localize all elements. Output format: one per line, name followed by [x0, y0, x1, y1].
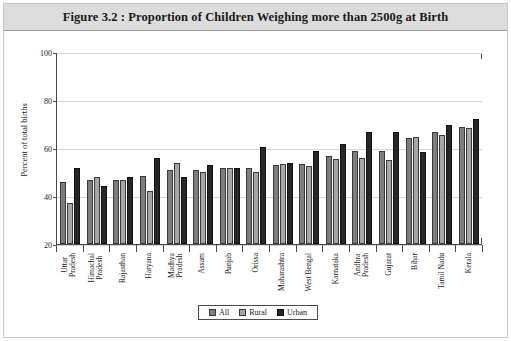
x-tick-mark	[455, 245, 456, 252]
x-tick-mark	[163, 245, 164, 252]
x-axis-label-line: Assam	[198, 253, 206, 274]
legend-label-rural: Rural	[249, 308, 267, 317]
x-axis-label-karnataka: Karnataka	[331, 253, 339, 284]
bar-urban	[473, 119, 479, 244]
x-axis-label-himachal-pradesh: HimachalPradesh	[88, 253, 104, 283]
page-title: Figure 3.2 : Proportion of Children Weig…	[63, 10, 449, 25]
bar-group	[84, 53, 111, 244]
x-tick-mark	[269, 245, 270, 252]
x-axis-label-line: Pradesh	[69, 253, 77, 277]
x-axis-label-bihar: Bihar	[411, 253, 419, 270]
bar-urban	[181, 177, 187, 244]
x-axis-label-kerala: Kerala	[465, 253, 473, 273]
x-label-cell: Bihar	[402, 253, 429, 327]
x-label-cell: UttarPradesh	[56, 253, 83, 327]
bar-all	[379, 151, 385, 244]
bar-rural	[466, 128, 472, 244]
bar-urban	[287, 163, 293, 244]
x-axis-label-gujarat: Gujarat	[385, 253, 393, 276]
bar-group	[190, 53, 217, 244]
bar-rural	[333, 159, 339, 244]
x-tick-mark	[296, 245, 297, 252]
legend-item-all: All	[209, 308, 229, 317]
chart-legend: AllRuralUrban	[198, 305, 318, 320]
bar-group	[243, 53, 270, 244]
x-label-cell: AndhraPradesh	[349, 253, 376, 327]
x-axis-label-madhya-pradesh: MadhyaPradesh	[168, 253, 184, 278]
bar-group	[216, 53, 243, 244]
y-tick-label: 20	[44, 241, 52, 250]
bar-rural	[120, 180, 126, 244]
figure-container: Figure 3.2 : Proportion of Children Weig…	[0, 0, 511, 341]
x-tick-mark	[109, 245, 110, 252]
x-axis-label-andhra-pradesh: AndhraPradesh	[354, 253, 370, 277]
y-tick-label: 60	[44, 145, 52, 154]
x-axis-label-line: Orissa	[252, 253, 260, 272]
x-axis-label-line: Kerala	[465, 253, 473, 273]
bar-urban	[260, 147, 266, 244]
x-axis-label-uttar-pradesh: UttarPradesh	[61, 253, 77, 277]
bar-rural	[306, 166, 312, 244]
bar-groups	[57, 53, 482, 244]
bar-urban	[366, 132, 372, 244]
x-axis-ticks	[56, 245, 482, 252]
x-axis-label-line: Karnataka	[331, 253, 339, 284]
x-axis-label-line: Haryana	[145, 253, 153, 279]
bar-group	[323, 53, 350, 244]
bar-all	[87, 180, 93, 244]
bar-urban	[127, 177, 133, 244]
bar-rural	[67, 203, 73, 244]
bar-group	[455, 53, 482, 244]
legend-swatch-urban	[277, 309, 284, 316]
x-tick-mark	[242, 245, 243, 252]
bar-rural	[174, 163, 180, 244]
x-axis-label-west-bengal: West Bengal	[305, 253, 313, 291]
x-axis-label-assam: Assam	[198, 253, 206, 274]
x-label-cell: Karnataka	[322, 253, 349, 327]
bar-urban	[420, 152, 426, 244]
y-axis-title: Percent of total births	[19, 70, 29, 210]
bar-urban	[340, 144, 346, 244]
bar-urban	[313, 151, 319, 244]
bar-rural	[359, 158, 365, 244]
y-tick-label: 80	[44, 97, 52, 106]
bar-group	[110, 53, 137, 244]
x-label-cell: MadhyaPradesh	[163, 253, 190, 327]
x-axis-label-rajasthan: Rajasthan	[118, 253, 126, 283]
bar-group	[376, 53, 403, 244]
bar-urban	[74, 168, 80, 244]
bar-group	[296, 53, 323, 244]
bar-rural	[386, 160, 392, 244]
x-label-cell: Kerala	[455, 253, 482, 327]
bar-all	[60, 182, 66, 244]
x-axis-label-line: Rajasthan	[118, 253, 126, 283]
bar-all	[352, 151, 358, 244]
x-axis-label-punjab: Punjab	[225, 253, 233, 274]
legend-label-urban: Urban	[287, 308, 307, 317]
x-label-cell: Tamil Nadu	[429, 253, 456, 327]
bar-rural	[200, 172, 206, 244]
x-tick-mark	[322, 245, 323, 252]
x-axis-label-maharashtra: Maharashtra	[278, 253, 286, 291]
bar-urban	[446, 125, 452, 244]
bar-group	[402, 53, 429, 244]
x-tick-mark	[189, 245, 190, 252]
plot-area: 20406080100	[56, 53, 482, 245]
x-tick-mark	[216, 245, 217, 252]
plot-wrapper: Percent of total births 20406080100 Utta…	[0, 31, 511, 341]
x-axis-label-orissa: Orissa	[252, 253, 260, 272]
bar-all	[193, 170, 199, 244]
bar-group	[137, 53, 164, 244]
bar-all	[113, 180, 119, 244]
bar-group	[349, 53, 376, 244]
bar-all	[326, 156, 332, 244]
bar-rural	[413, 137, 419, 244]
bar-all	[432, 132, 438, 244]
x-axis-label-line: Pradesh	[176, 253, 184, 278]
bar-urban	[154, 158, 160, 244]
bar-all	[140, 176, 146, 244]
bar-group	[57, 53, 84, 244]
bar-all	[299, 164, 305, 244]
x-tick-mark	[429, 245, 430, 252]
bar-urban	[207, 165, 213, 244]
